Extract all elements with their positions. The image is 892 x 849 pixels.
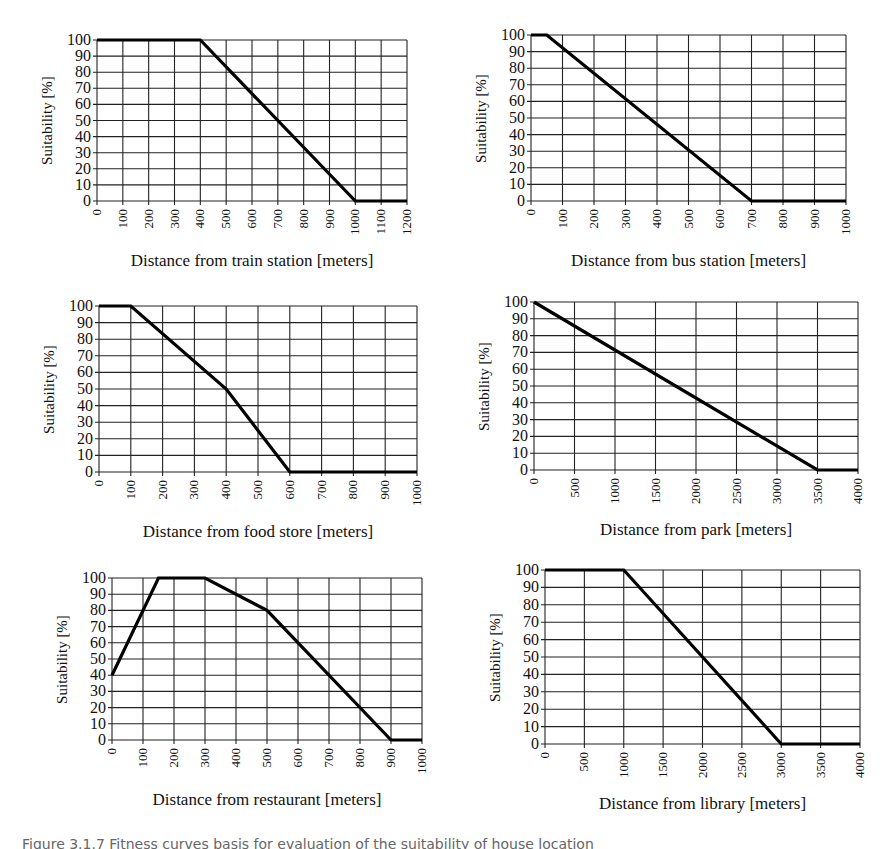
x-axis-label: Distance from library [meters] <box>505 794 892 814</box>
x-tick-label: 700 <box>744 209 759 229</box>
x-tick-label: 0 <box>89 209 104 216</box>
x-tick-label: 3500 <box>810 478 825 504</box>
y-tick-label: 30 <box>512 411 528 428</box>
x-tick-label: 2500 <box>729 478 744 504</box>
x-tick-label: 0 <box>523 209 538 216</box>
x-tick-label: 2000 <box>695 752 710 778</box>
x-tick-label: 700 <box>314 480 329 500</box>
x-axis-label: Distance from bus station [meters] <box>491 251 886 271</box>
y-tick-label: 70 <box>75 79 91 96</box>
y-tick-label: 80 <box>512 327 528 344</box>
y-tick-label: 20 <box>75 160 91 177</box>
plot-area: 0102030405060708090100010020030040050060… <box>531 35 846 201</box>
x-tick-label: 300 <box>186 480 201 500</box>
y-tick-label: 100 <box>69 297 93 314</box>
y-tick-label: 50 <box>75 112 91 129</box>
x-tick-label: 0 <box>537 752 552 759</box>
y-tick-label: 10 <box>90 715 106 732</box>
x-tick-label: 1200 <box>399 209 414 235</box>
x-tick-label: 1500 <box>648 478 663 504</box>
y-tick-label: 90 <box>77 314 93 331</box>
x-tick-label: 800 <box>775 209 790 229</box>
y-tick-label: 90 <box>90 585 106 602</box>
x-tick-label: 200 <box>155 480 170 500</box>
x-tick-label: 0 <box>104 748 119 755</box>
x-tick-label: 100 <box>135 748 150 768</box>
y-tick-label: 0 <box>98 731 106 748</box>
y-tick-label: 80 <box>90 601 106 618</box>
y-tick-label: 10 <box>523 718 539 735</box>
x-tick-label: 600 <box>244 209 259 229</box>
y-tick-label: 50 <box>509 109 525 126</box>
y-tick-label: 0 <box>531 735 539 752</box>
y-tick-label: 90 <box>75 47 91 64</box>
x-tick-label: 900 <box>322 209 337 229</box>
x-tick-label: 1000 <box>607 478 622 504</box>
x-tick-label: 4000 <box>852 752 867 778</box>
y-tick-label: 60 <box>90 634 106 651</box>
plot-area: 0102030405060708090100050010001500200025… <box>534 302 858 470</box>
y-tick-label: 80 <box>523 596 539 613</box>
x-tick-label: 700 <box>270 209 285 229</box>
x-tick-label: 400 <box>192 209 207 229</box>
y-tick-label: 50 <box>523 648 539 665</box>
x-tick-label: 900 <box>377 480 392 500</box>
y-tick-label: 20 <box>90 699 106 716</box>
x-tick-label: 100 <box>123 480 138 500</box>
x-tick-label: 100 <box>555 209 570 229</box>
y-tick-label: 40 <box>90 666 106 683</box>
y-tick-label: 10 <box>509 175 525 192</box>
x-tick-label: 3000 <box>773 752 788 778</box>
figure-caption: Figure 3.1.7 Fitness curves basis for ev… <box>22 836 594 849</box>
x-tick-label: 300 <box>197 748 212 768</box>
y-tick-label: 100 <box>67 31 91 48</box>
y-tick-label: 30 <box>77 413 93 430</box>
x-tick-label: 800 <box>352 748 367 768</box>
x-tick-label: 1100 <box>373 209 388 235</box>
y-tick-label: 60 <box>75 95 91 112</box>
plot-area: 0102030405060708090100010020030040050060… <box>112 578 422 740</box>
y-tick-label: 40 <box>509 126 525 143</box>
y-tick-label: 50 <box>90 650 106 667</box>
x-axis-label: Distance from park [meters] <box>494 520 892 540</box>
y-axis-label: Suitability [%] <box>473 74 490 163</box>
y-tick-label: 0 <box>520 461 528 478</box>
y-tick-label: 30 <box>523 683 539 700</box>
x-tick-label: 500 <box>218 209 233 229</box>
chart-restaurant: 0102030405060708090100010020030040050060… <box>112 578 422 740</box>
y-tick-label: 30 <box>90 682 106 699</box>
y-tick-label: 50 <box>77 380 93 397</box>
y-tick-label: 100 <box>515 561 539 578</box>
x-tick-label: 200 <box>166 748 181 768</box>
y-tick-label: 100 <box>504 293 528 310</box>
chart-park: 0102030405060708090100050010001500200025… <box>534 302 858 470</box>
y-axis-label: Suitability [%] <box>41 345 58 434</box>
y-tick-label: 0 <box>85 463 93 480</box>
y-tick-label: 20 <box>512 427 528 444</box>
y-axis-label: Suitability [%] <box>39 76 56 165</box>
x-tick-label: 1000 <box>414 748 429 774</box>
x-tick-label: 500 <box>681 209 696 229</box>
plot-area: 0102030405060708090100010020030040050060… <box>99 306 417 472</box>
x-tick-label: 900 <box>807 209 822 229</box>
x-tick-label: 500 <box>250 480 265 500</box>
y-tick-label: 70 <box>77 347 93 364</box>
y-axis-label: Suitability [%] <box>487 613 504 702</box>
x-tick-label: 1000 <box>616 752 631 778</box>
x-tick-label: 200 <box>586 209 601 229</box>
x-tick-label: 200 <box>141 209 156 229</box>
y-tick-label: 20 <box>509 159 525 176</box>
x-tick-label: 600 <box>290 748 305 768</box>
y-tick-label: 20 <box>523 700 539 717</box>
y-tick-label: 100 <box>501 26 525 43</box>
y-tick-label: 70 <box>90 618 106 635</box>
y-tick-label: 50 <box>512 377 528 394</box>
y-tick-label: 10 <box>75 176 91 193</box>
x-tick-label: 300 <box>167 209 182 229</box>
y-tick-label: 80 <box>509 59 525 76</box>
chart-food: 0102030405060708090100010020030040050060… <box>99 306 417 472</box>
y-tick-label: 60 <box>77 363 93 380</box>
x-tick-label: 0 <box>91 480 106 487</box>
y-tick-label: 70 <box>523 613 539 630</box>
plot-area: 0102030405060708090100010020030040050060… <box>97 40 407 201</box>
